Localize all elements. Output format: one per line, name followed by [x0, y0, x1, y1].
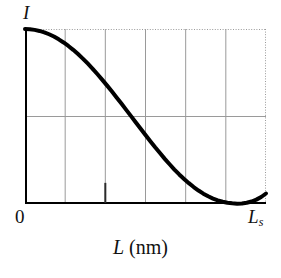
- plot-area: [25, 29, 266, 204]
- y-axis-label: I: [23, 3, 29, 22]
- intensity-vs-length-figure: I 0 Ls L (nm): [0, 0, 281, 278]
- x-axis-label-unit: (nm): [124, 236, 168, 258]
- x-axis-max-subscript: s: [259, 215, 264, 229]
- x-axis-label: L (nm): [0, 237, 281, 257]
- x-axis-origin-label: 0: [15, 207, 25, 226]
- x-axis-max-label: Ls: [248, 207, 263, 228]
- plot-axes: [25, 29, 266, 204]
- x-axis-label-symbol: L: [113, 236, 124, 258]
- x-axis-max-base: L: [248, 206, 259, 227]
